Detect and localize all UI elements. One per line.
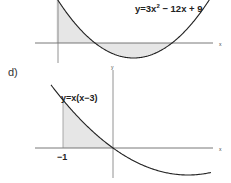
curve-label-c: y=3x2 − 12x + 9 — [135, 3, 203, 14]
chart-c: x y=3x2 − 12x + 9 — [35, 0, 222, 63]
part-label-d: d) — [8, 66, 18, 78]
figure: x y=3x2 − 12x + 9 d) y x y=x(x−3) −1 — [0, 0, 231, 183]
chart-d: y x y=x(x−3) −1 — [35, 64, 222, 178]
x-tick-label-d: −1 — [57, 152, 67, 162]
x-axis-label-d: x — [219, 146, 222, 152]
x-axis-label-c: x — [219, 41, 222, 47]
y-axis-label-d: y — [111, 64, 114, 70]
shaded-region-d — [63, 100, 113, 148]
curve-label-d: y=x(x−3) — [61, 93, 98, 103]
